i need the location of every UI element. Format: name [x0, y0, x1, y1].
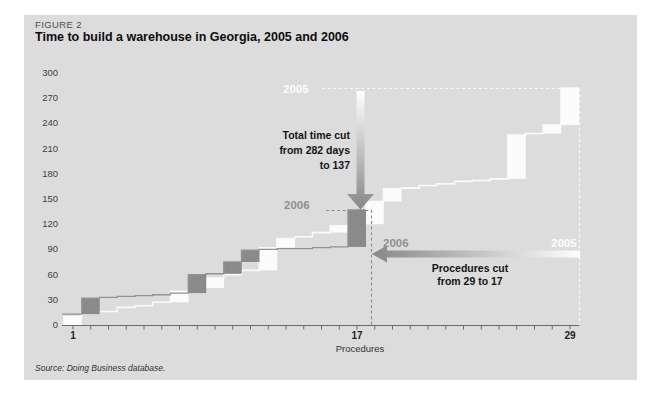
chart-title: Time to build a warehouse in Georgia, 20…	[35, 30, 349, 44]
source-note: Source: Doing Business database.	[35, 363, 165, 373]
annotation-total-time-cut: Total time cut from 282 days to 137	[210, 128, 350, 173]
y-tick-label-240: 240	[24, 117, 58, 129]
y-tick-label-60: 60	[24, 269, 58, 281]
annotation-line: from 282 days	[210, 143, 350, 158]
x-axis-title: Procedures	[308, 343, 412, 354]
annotation-line: to 137	[210, 158, 350, 173]
x-tick-label-1: 1	[58, 330, 88, 342]
annotation-line: Total time cut	[210, 128, 350, 143]
x-tick-label-29: 29	[555, 330, 585, 342]
y-tick-label-300: 300	[24, 67, 58, 79]
y-tick-label-180: 180	[24, 168, 58, 180]
y-tick-label-0: 0	[24, 319, 58, 331]
series-label-2005-arrow: 2005	[551, 237, 577, 249]
y-tick-label-210: 210	[24, 143, 58, 155]
y-tick-label-150: 150	[24, 193, 58, 205]
y-tick-label-270: 270	[24, 92, 58, 104]
figure-number-label: FIGURE 2	[35, 19, 82, 30]
figure-2-chart: FIGURE 2 Time to build a warehouse in Ge…	[0, 0, 656, 403]
chart-panel-background	[24, 15, 637, 380]
annotation-line: from 29 to 17	[395, 275, 545, 288]
series-label-2006-peak: 2006	[284, 199, 310, 211]
y-tick-label-90: 90	[24, 243, 58, 255]
x-tick-label-17: 17	[342, 330, 372, 342]
annotation-procedures-cut: Procedures cut from 29 to 17	[395, 262, 545, 288]
annotation-line: Procedures cut	[395, 262, 545, 275]
y-tick-label-30: 30	[24, 294, 58, 306]
y-tick-label-120: 120	[24, 218, 58, 230]
series-label-2006-arrow: 2006	[383, 237, 409, 249]
series-label-2005-peak: 2005	[283, 83, 309, 95]
